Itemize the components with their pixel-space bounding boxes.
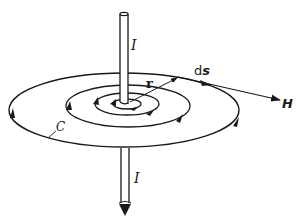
tangent-line — [178, 77, 280, 100]
current-label-bottom: I — [133, 170, 140, 186]
contour-leader — [48, 131, 56, 138]
line-element-label: ds — [194, 63, 210, 78]
contour-label: C — [56, 120, 65, 134]
radius-label: r — [146, 76, 153, 91]
direction-arrow-icon — [10, 108, 15, 118]
field-label: H — [282, 96, 293, 111]
line-element-d: d — [194, 63, 202, 78]
direction-arrow-icon — [130, 107, 138, 111]
ampere-law-diagram: I I r ds H C — [0, 0, 302, 220]
line-element-s: s — [202, 63, 210, 78]
ds-arrow-icon — [200, 80, 212, 86]
current-arrow-icon — [119, 204, 131, 216]
wire-top — [120, 12, 128, 104]
wire-bottom — [119, 148, 131, 216]
direction-arrow-icon — [93, 97, 99, 105]
direction-arrow-icon — [110, 99, 116, 106]
current-label-top: I — [130, 37, 137, 53]
wire-cap — [120, 12, 128, 15]
